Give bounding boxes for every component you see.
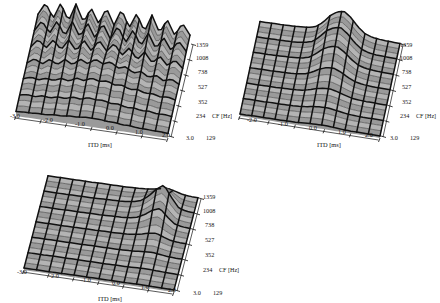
panel-3-y-tick-6: 129 xyxy=(213,289,222,296)
panel-2-y-tick-0: 1359 xyxy=(400,41,412,48)
panel-3-x-tick-1: -2.0 xyxy=(49,272,59,279)
panel-2-y-tick-2: 738 xyxy=(402,68,411,75)
panel-1-y-tick-1: 1008 xyxy=(196,54,208,61)
panel-3-y-tick-2: 738 xyxy=(205,221,214,228)
panel-2-x-tick-3: 1.0 xyxy=(338,128,346,135)
panel-1-x-axis-title: ITD [ms] xyxy=(88,141,112,148)
panel-3-x-tick-4: 1.0 xyxy=(141,283,149,290)
panel-1-x-tick-6: 3.0 xyxy=(186,134,194,141)
panel-1-x-tick-2: -1.0 xyxy=(75,120,85,127)
panel-1-y-tick-3: 527 xyxy=(198,83,207,90)
panel-2-x-tick-2: 0.0 xyxy=(309,124,317,131)
panel-2-canvas: -2.0 -1.0 0.0 1.0 2.0 3.0 ITD [ms] 1359 … xyxy=(236,0,440,152)
panel-2-x-tick-1: -1.0 xyxy=(278,120,288,127)
panel-2-surface xyxy=(240,11,400,138)
panel-3-y-axis-title: CF [Hz] xyxy=(219,267,239,273)
panel-3-y-tick-5: 234 xyxy=(203,266,212,273)
panel-2-x-tick-5: 3.0 xyxy=(390,134,398,141)
panel-1-x-tick-0: -3.0 xyxy=(10,112,20,119)
panel-3-y-tick-4: 352 xyxy=(205,251,214,258)
panel-2-y-tick-1: 1008 xyxy=(400,54,412,61)
panel-3-x-tick-3: 0.0 xyxy=(112,279,120,286)
panel-1-y-tick-6: 129 xyxy=(206,134,215,141)
panel-2-y-axis-title: CF [Hz] xyxy=(416,113,436,119)
panel-2-y-tick-4: 352 xyxy=(402,98,411,105)
panel-1-canvas: -3.0 -2.0 -1.0 0.0 1.0 2.0 3.0 ITD [ms] … xyxy=(0,0,232,152)
panel-1-y-tick-0: 1359 xyxy=(196,41,208,48)
surface-plot-panel-2: -2.0 -1.0 0.0 1.0 2.0 3.0 ITD [ms] 1359 … xyxy=(236,0,440,152)
panel-3-y-tick-0: 1359 xyxy=(203,193,215,200)
panel-3-x-tick-6: 3.0 xyxy=(193,289,201,296)
panel-1-x-tick-1: -2.0 xyxy=(43,116,53,123)
panel-1-y-axis-title: CF [Hz] xyxy=(212,113,232,119)
panel-2-y-tick-6: 129 xyxy=(410,134,419,141)
surface-plot-panel-3: -3.0 -2.0 -1.0 0.0 1.0 2.0 3.0 ITD [ms] … xyxy=(14,152,254,303)
panel-3-x-axis-title: ITD [ms] xyxy=(98,295,122,302)
panel-1-y-tick-5: 234 xyxy=(196,112,205,119)
panel-1-y-tick-2: 738 xyxy=(198,68,207,75)
panel-2-y-tick-5: 234 xyxy=(400,112,409,119)
panel-1-x-tick-4: 1.0 xyxy=(135,128,143,135)
panel-3-x-tick-2: -1.0 xyxy=(81,276,91,283)
panel-3-y-tick-1: 1008 xyxy=(203,207,215,214)
panel-2-x-axis-title: ITD [ms] xyxy=(317,141,341,148)
panel-3-x-tick-5: 2.0 xyxy=(168,286,176,293)
panel-3-x-tick-0: -3.0 xyxy=(17,268,27,275)
panel-1-x-tick-5: 2.0 xyxy=(162,131,170,138)
panel-2-y-tick-3: 527 xyxy=(402,83,411,90)
panel-3-y-tick-3: 527 xyxy=(205,236,214,243)
surface-plot-panel-1: -3.0 -2.0 -1.0 0.0 1.0 2.0 3.0 ITD [ms] … xyxy=(0,0,232,152)
panel-1-y-tick-4: 352 xyxy=(198,98,207,105)
panel-2-x-tick-0: -2.0 xyxy=(247,116,257,123)
panel-3-canvas: -3.0 -2.0 -1.0 0.0 1.0 2.0 3.0 ITD [ms] … xyxy=(14,152,254,303)
panel-1-x-tick-3: 0.0 xyxy=(106,124,114,131)
panel-2-x-tick-4: 2.0 xyxy=(365,131,373,138)
